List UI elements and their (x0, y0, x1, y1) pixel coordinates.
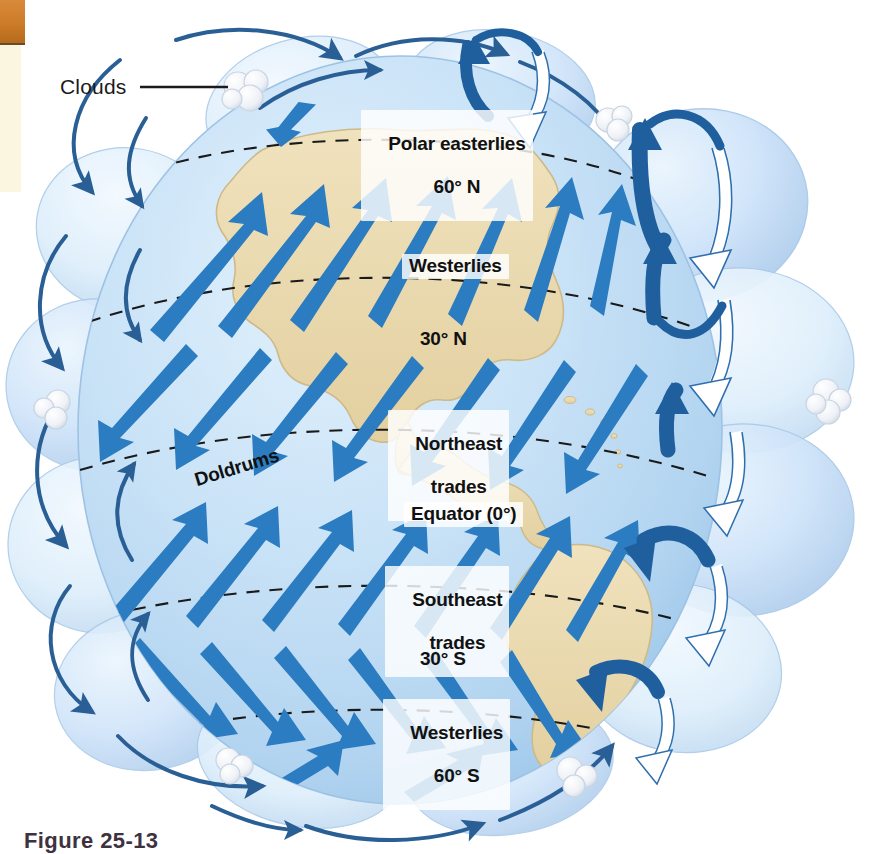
ne-trades-line1: Northeast (415, 433, 502, 454)
label-polar-easterlies: Polar easterlies 60° N (361, 110, 533, 221)
westerlies-south-line2: 60° S (434, 765, 480, 786)
cloud-icon (222, 70, 268, 111)
westerlies-south-line1: Westerlies (410, 722, 503, 743)
ne-trades-line2: trades (431, 476, 487, 497)
label-equator: Equator (0°) (404, 502, 523, 527)
label-latitude-30s: 30° S (420, 648, 466, 670)
polar-easterlies-line1: Polar easterlies (388, 133, 525, 154)
se-trades-line1: Southeast (412, 589, 502, 610)
polar-easterlies-line2: 60° N (434, 176, 481, 197)
label-latitude-30n: 30° N (420, 328, 467, 350)
clouds-label: Clouds (60, 75, 127, 99)
cloud-icon (596, 106, 632, 141)
label-westerlies-north: Westerlies (402, 254, 509, 279)
figure-caption: Figure 25-13 (24, 828, 158, 854)
label-westerlies-south: Westerlies 60° S (383, 699, 510, 810)
